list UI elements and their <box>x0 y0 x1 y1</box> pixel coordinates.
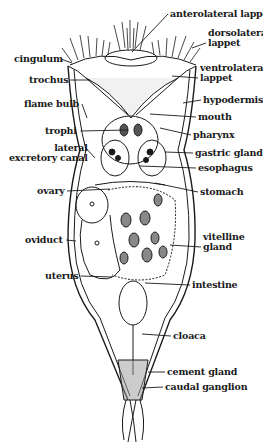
label-ovary: ovary <box>37 186 65 196</box>
label-oviduct: oviduct <box>25 235 63 245</box>
label-hypodermis: hypodermis <box>203 95 263 105</box>
label-anterolateral-lappet: anterolateral lappet <box>170 9 263 19</box>
label-pharynx: pharynx <box>193 130 234 140</box>
label-gastric-gland: gastric gland <box>195 148 263 158</box>
label-caudal-ganglion: caudal ganglion <box>165 382 247 392</box>
label-mouth: mouth <box>198 112 232 122</box>
label-ventrolateral-lappet: ventrolateral lappet <box>200 63 263 83</box>
label-esophagus: esophagus <box>198 163 253 173</box>
label-dorsolateral-lappet: dorsolateral lappet <box>208 28 263 48</box>
label-lateral-excretory-canal: lateral excretory canal <box>9 143 88 163</box>
label-intestine: intestine <box>192 280 237 290</box>
label-trophi: trophi <box>45 126 77 136</box>
label-stomach: stomach <box>200 187 244 197</box>
label-uterus: uterus <box>45 271 78 281</box>
label-cloaca: cloaca <box>173 331 206 341</box>
label-cement-gland: cement gland <box>167 367 237 377</box>
label-flame-bulb: flame bulb <box>24 99 79 109</box>
rotifer-diagram: anterolateral lappetdorsolateral lappetv… <box>0 0 263 445</box>
label-cingulum: cingulum <box>14 54 63 64</box>
corona-cilia <box>62 20 200 62</box>
label-vitelline-gland: vitelline gland <box>203 232 245 252</box>
label-trochus: trochus <box>29 75 68 85</box>
